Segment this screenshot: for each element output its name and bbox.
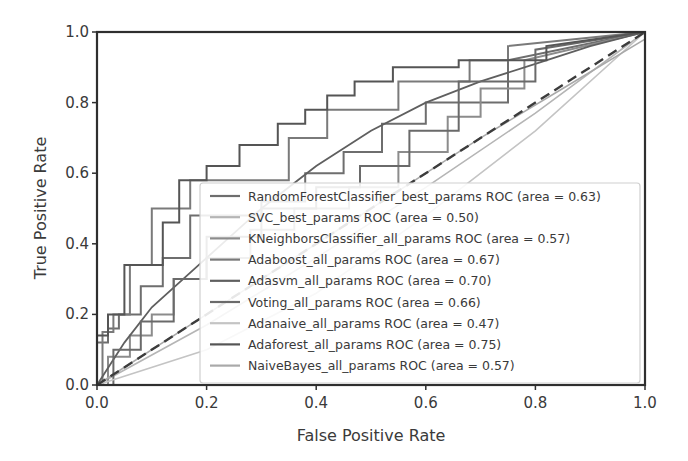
x-tick-label: 1.0 xyxy=(633,394,657,412)
legend-label: Adaforest_all_params ROC (area = 0.75) xyxy=(248,337,501,352)
y-tick-label: 0.2 xyxy=(65,305,89,323)
x-tick-label: 0.4 xyxy=(304,394,328,412)
x-axis-ticks: 0.00.20.40.60.81.0 xyxy=(85,385,657,412)
legend-label: Adanaive_all_params ROC (area = 0.47) xyxy=(248,316,499,331)
roc-chart: 0.00.20.40.60.81.0 0.00.20.40.60.81.0 Fa… xyxy=(0,0,688,461)
y-tick-label: 0.8 xyxy=(65,94,89,112)
x-tick-label: 0.8 xyxy=(523,394,547,412)
legend-label: NaiveBayes_all_params ROC (area = 0.57) xyxy=(248,358,515,373)
legend: RandomForestClassifier_best_params ROC (… xyxy=(200,183,640,383)
x-tick-label: 0.0 xyxy=(85,394,109,412)
legend-label: Adasvm_all_params ROC (area = 0.70) xyxy=(248,273,491,288)
x-tick-label: 0.6 xyxy=(414,394,438,412)
y-tick-label: 1.0 xyxy=(65,23,89,41)
legend-label: SVC_best_params ROC (area = 0.50) xyxy=(248,210,479,225)
y-tick-label: 0.4 xyxy=(65,235,89,253)
legend-label: Voting_all_params ROC (area = 0.66) xyxy=(248,295,481,310)
legend-label: RandomForestClassifier_best_params ROC (… xyxy=(248,189,601,204)
x-axis-label: False Positive Rate xyxy=(297,426,446,445)
y-tick-label: 0.0 xyxy=(65,376,89,394)
y-tick-label: 0.6 xyxy=(65,164,89,182)
legend-label: KNeighborsClassifier_all_params ROC (are… xyxy=(248,231,570,246)
y-axis-ticks: 0.00.20.40.60.81.0 xyxy=(65,23,97,394)
y-axis-label: True Positive Rate xyxy=(31,137,50,281)
x-tick-label: 0.2 xyxy=(195,394,219,412)
legend-label: Adaboost_all_params ROC (area = 0.67) xyxy=(248,252,500,267)
